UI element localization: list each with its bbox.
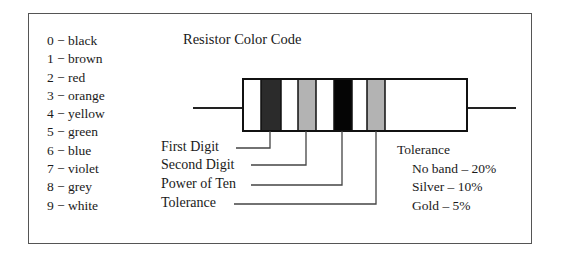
leader-tolerance <box>234 131 376 204</box>
tolerance-item-silver: Silver – 10% <box>397 178 496 197</box>
tolerance-item-gold: Gold – 5% <box>397 197 496 216</box>
band-first-digit <box>261 79 281 131</box>
tolerance-item-no-band: No band – 20% <box>397 160 496 179</box>
label-second-digit: Second Digit <box>161 157 235 173</box>
leader-first-digit <box>236 131 270 148</box>
tolerance-heading: Tolerance <box>397 141 496 160</box>
label-tolerance: Tolerance <box>161 195 216 211</box>
band-tolerance <box>367 79 385 131</box>
band-second-digit <box>298 79 316 131</box>
band-power-of-ten <box>334 79 352 131</box>
tolerance-legend: Tolerance No band – 20% Silver – 10% Gol… <box>397 141 496 215</box>
label-first-digit: First Digit <box>161 139 219 155</box>
leader-power-of-ten <box>251 131 342 185</box>
label-power-of-ten: Power of Ten <box>161 176 236 192</box>
resistor-drawing <box>0 0 562 264</box>
